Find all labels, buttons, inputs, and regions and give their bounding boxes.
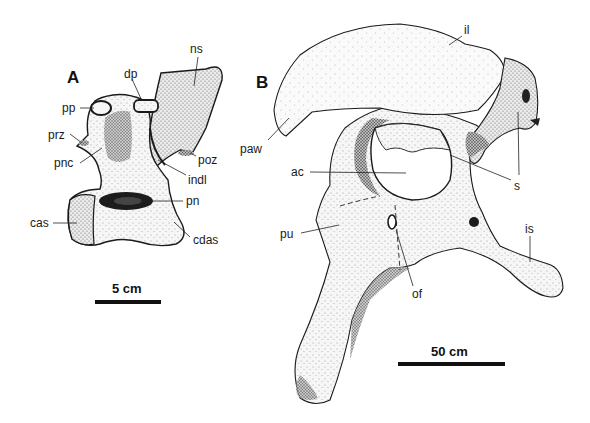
label-pu: pu xyxy=(280,227,293,241)
label-cas: cas xyxy=(30,216,49,230)
panel-a-label: A xyxy=(67,68,79,87)
panel-a: A ns dp pp prz pnc poz xyxy=(30,42,222,304)
label-ns: ns xyxy=(190,42,203,56)
label-s: s xyxy=(514,179,520,193)
panel-b-label: B xyxy=(256,73,268,92)
label-ac: ac xyxy=(291,165,304,179)
scale-bar-b xyxy=(398,362,505,366)
label-is: is xyxy=(525,222,534,236)
postzygapophysis xyxy=(178,150,194,156)
label-cdas: cdas xyxy=(193,233,218,247)
scale-label-b: 50 cm xyxy=(431,344,468,359)
cranial-articular-surface xyxy=(68,195,95,245)
label-il: il xyxy=(464,23,469,37)
neural-canal xyxy=(104,111,132,162)
label-of: of xyxy=(412,287,423,301)
obturator-foramen xyxy=(388,215,396,229)
ischial-tubercle xyxy=(469,217,479,227)
scale-bar-a xyxy=(95,300,161,304)
label-prz: prz xyxy=(48,128,65,142)
label-pn: pn xyxy=(186,194,199,208)
label-pnc: pnc xyxy=(54,156,73,170)
pneumatic-foramen-highlight xyxy=(114,197,142,205)
panel-b: B il paw ac xyxy=(240,23,563,404)
label-pp: pp xyxy=(62,101,76,115)
label-dp: dp xyxy=(124,67,138,81)
leader-prz xyxy=(70,134,82,143)
figure-canvas: A ns dp pp prz pnc poz xyxy=(0,0,590,423)
prezygapophysis xyxy=(79,140,89,146)
label-paw: paw xyxy=(240,142,262,156)
label-indl: indl xyxy=(188,173,207,187)
label-poz: poz xyxy=(198,153,217,167)
diapophysis xyxy=(134,100,158,112)
scale-label-a: 5 cm xyxy=(112,281,142,296)
sacral-foramen xyxy=(522,89,530,103)
